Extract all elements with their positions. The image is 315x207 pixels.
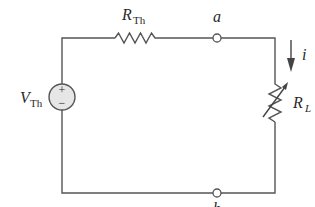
source-minus-sign: − [59,96,66,110]
wires [62,38,275,193]
current-arrow-icon [287,40,295,72]
terminal-a-label: a [213,8,221,25]
terminal-a [213,34,221,42]
thevenin-resistor [115,33,158,43]
load-variable-resistor [263,80,288,122]
load-resistor-label: R [292,94,303,111]
thevenin-resistor-label: R [121,6,132,23]
current-label: i [302,46,306,63]
thevenin-circuit-diagram: + − V Th R Th a b i R L [0,0,315,207]
thevenin-resistor-label-subscript: Th [133,14,146,26]
load-resistor-label-subscript: L [304,102,311,114]
source-label-subscript: Th [30,97,43,109]
wire-bottom-right [221,122,275,193]
terminal-b [213,189,221,197]
wire-bottom-left [62,110,213,193]
wire-top-right [221,38,275,80]
wire-top-left [62,38,115,84]
terminal-b-label: b [213,200,221,207]
source-plus-sign: + [59,83,66,97]
voltage-source: + − [49,83,75,110]
